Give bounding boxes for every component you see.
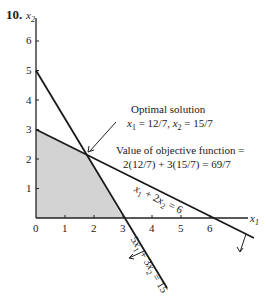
x-axis-label: x1	[250, 212, 259, 229]
objective-value-line1: Value of objective function =	[116, 144, 244, 156]
optimal-pointer-arrow	[88, 122, 116, 152]
optimal-solution-values: x1 = 12/7, x2 = 15/7	[127, 117, 213, 134]
y-tick-label: 5	[26, 64, 32, 76]
x-tick-label: 6	[207, 222, 213, 234]
x-tick-label: 4	[149, 222, 155, 234]
x-tick-label: 1	[62, 222, 68, 234]
y-tick-label: 6	[26, 34, 32, 46]
x-tick-label: 3	[120, 222, 126, 234]
y-tick-label: 4	[26, 94, 32, 106]
x-tick-label: 5	[178, 222, 184, 234]
y-tick-label: 1	[26, 182, 32, 194]
objective-value-line2: 2(12/7) + 3(15/7) = 69/7	[123, 158, 231, 170]
x-tick-label: 2	[91, 222, 97, 234]
optimal-solution-title: Optimal solution	[131, 103, 205, 115]
y-tick-label: 3	[26, 123, 32, 135]
x-tick-label: 0	[33, 222, 39, 234]
y-axis-label: x2	[26, 9, 35, 26]
problem-number: 10.	[6, 9, 22, 21]
direction-arrow-1	[237, 234, 246, 252]
y-tick-label: 2	[26, 153, 32, 165]
